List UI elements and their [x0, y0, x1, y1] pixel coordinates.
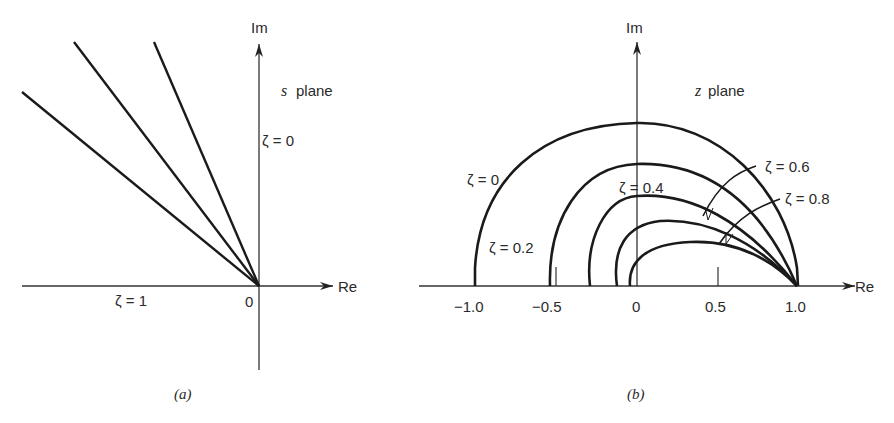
constant-zeta-line-2: [74, 42, 259, 286]
plane-word-a: plane: [296, 82, 333, 99]
zeta-1-label-a: ζ = 1: [115, 292, 147, 309]
tick-label-1: 1.0: [785, 298, 806, 315]
tick-label-0-5: 0.5: [705, 298, 726, 315]
plane-var-a: s: [281, 82, 287, 99]
caption-b: (b): [627, 386, 645, 403]
im-axis-label-a: Im: [251, 19, 268, 36]
zeta-0.2-label: ζ = 0.2: [489, 239, 534, 256]
panel-b-z-plane: Im Re z plane −1.0 −0.5 0 0.5 1.0 ζ = 0 …: [419, 19, 874, 403]
zeta-0.8-label: ζ = 0.8: [785, 190, 830, 207]
re-axis-label-a: Re: [338, 278, 357, 295]
plane-word-b: plane: [708, 82, 745, 99]
constant-zeta-line-3: [154, 42, 259, 286]
re-axis-label-b: Re: [855, 278, 874, 295]
panel-a-s-plane: Im Re s plane ζ = 0 ζ = 1 0 (a): [22, 19, 357, 403]
tick-label-neg-0-5: −0.5: [532, 298, 562, 315]
zeta-0-label-a: ζ = 0: [262, 132, 294, 149]
tick-label-neg-1: −1.0: [454, 298, 484, 315]
origin-label-a: 0: [245, 293, 253, 310]
zeta-0.6-label: ζ = 0.6: [765, 158, 810, 175]
tick-label-0: 0: [632, 298, 640, 315]
zeta-0-label-b: ζ = 0: [467, 171, 499, 188]
im-axis-label-b: Im: [626, 19, 643, 36]
caption-a: (a): [174, 386, 192, 403]
locus-zeta-0.8: [630, 242, 797, 286]
zeta-0.4-label: ζ = 0.4: [619, 179, 664, 196]
constant-zeta-line-1: [22, 92, 259, 286]
plane-var-b: z: [694, 82, 702, 99]
figure: Im Re s plane ζ = 0 ζ = 1 0 (a) Im Re z …: [0, 0, 894, 423]
